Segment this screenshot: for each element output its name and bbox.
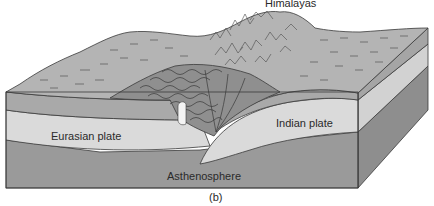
label-asthenosphere: Asthenosphere (167, 171, 241, 182)
label-eurasian-plate: Eurasian plate (51, 131, 121, 142)
label-himalayas: Himalayas (265, 0, 316, 9)
granite-intrusion (178, 102, 186, 125)
label-indian-plate: Indian plate (276, 118, 333, 129)
figure-caption: (b) (209, 192, 222, 203)
himalaya-block-diagram: Himalayas Eurasian plate Indian plate As… (0, 0, 434, 206)
